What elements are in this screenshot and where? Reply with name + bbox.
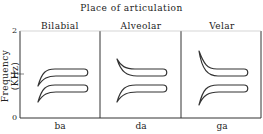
formant-band-alveolar-f2	[117, 59, 167, 76]
formant-band-bilabial-f2	[38, 69, 88, 86]
syllable-label-ba: ba	[20, 121, 100, 131]
formant-band-velar-f2	[199, 51, 248, 76]
formant-band-velar-f1	[199, 85, 248, 105]
formant-band-alveolar-f1	[117, 85, 167, 102]
formant-band-bilabial-f1	[38, 85, 88, 102]
syllable-label-ga: ga	[182, 121, 262, 131]
syllable-label-da: da	[101, 121, 181, 131]
formant-plot	[0, 0, 263, 134]
